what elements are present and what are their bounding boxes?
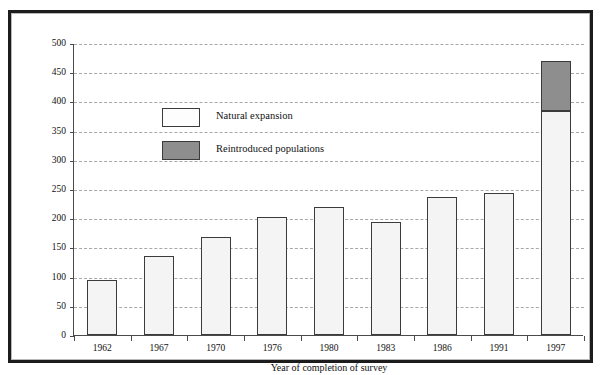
legend-label-natural-expansion: Natural expansion bbox=[216, 110, 293, 121]
bar-segment-natural-expansion bbox=[314, 207, 344, 335]
x-tick-label-1970: 1970 bbox=[191, 343, 241, 353]
y-tick-label: 350 bbox=[36, 127, 66, 137]
x-axis-title: Year of completion of survey bbox=[74, 362, 584, 373]
plot-area: 050100150200250300350400450500 Year of c… bbox=[73, 44, 583, 336]
x-tick-mark bbox=[357, 336, 358, 341]
bar-1997 bbox=[541, 43, 571, 335]
x-tick-mark bbox=[187, 336, 188, 341]
bar-1970 bbox=[201, 43, 231, 335]
legend-swatch-natural-expansion bbox=[162, 108, 200, 127]
legend-swatch-reintroduced-populations bbox=[162, 141, 200, 160]
x-tick-label-1997: 1997 bbox=[531, 343, 581, 353]
bar-1967 bbox=[144, 43, 174, 335]
x-tick-mark bbox=[471, 336, 472, 341]
bar-1962 bbox=[87, 43, 117, 335]
y-tick-label: 50 bbox=[36, 302, 66, 312]
legend-label-reintroduced-populations: Reintroduced populations bbox=[216, 143, 324, 154]
bar-1986 bbox=[427, 43, 457, 335]
y-tick-label: 150 bbox=[36, 243, 66, 253]
y-tick-mark bbox=[70, 219, 74, 220]
y-tick-label: 300 bbox=[36, 156, 66, 166]
x-tick-mark bbox=[301, 336, 302, 341]
y-tick-mark bbox=[70, 307, 74, 308]
bar-segment-natural-expansion bbox=[257, 217, 287, 335]
y-tick-label: 250 bbox=[36, 185, 66, 195]
x-tick-label-1983: 1983 bbox=[361, 343, 411, 353]
y-tick-label: 0 bbox=[36, 331, 66, 341]
y-tick-mark bbox=[70, 73, 74, 74]
y-tick-mark bbox=[70, 132, 74, 133]
x-tick-label-1976: 1976 bbox=[247, 343, 297, 353]
y-tick-mark bbox=[70, 102, 74, 103]
bar-segment-natural-expansion bbox=[144, 256, 174, 335]
x-tick-label-1980: 1980 bbox=[304, 343, 354, 353]
y-tick-mark bbox=[70, 248, 74, 249]
bar-1980 bbox=[314, 43, 344, 335]
bar-segment-natural-expansion bbox=[371, 222, 401, 335]
x-tick-mark bbox=[584, 336, 585, 341]
y-tick-label: 500 bbox=[36, 39, 66, 49]
y-tick-label: 400 bbox=[36, 97, 66, 107]
y-tick-label: 100 bbox=[36, 273, 66, 283]
y-tick-mark bbox=[70, 44, 74, 45]
bar-segment-natural-expansion bbox=[201, 237, 231, 335]
bar-segment-natural-expansion bbox=[541, 111, 571, 335]
x-tick-label-1986: 1986 bbox=[417, 343, 467, 353]
x-tick-label-1991: 1991 bbox=[474, 343, 524, 353]
y-tick-mark bbox=[70, 161, 74, 162]
figure-frame: Number of 10km squares recorded as occup… bbox=[8, 10, 593, 363]
bar-1983 bbox=[371, 43, 401, 335]
x-tick-mark bbox=[74, 336, 75, 341]
y-tick-mark bbox=[70, 278, 74, 279]
y-tick-label: 200 bbox=[36, 214, 66, 224]
x-tick-mark bbox=[131, 336, 132, 341]
y-tick-label: 450 bbox=[36, 68, 66, 78]
bar-1991 bbox=[484, 43, 514, 335]
x-tick-label-1967: 1967 bbox=[134, 343, 184, 353]
y-tick-mark bbox=[70, 190, 74, 191]
bar-1976 bbox=[257, 43, 287, 335]
bar-segment-natural-expansion bbox=[484, 193, 514, 335]
x-tick-mark bbox=[414, 336, 415, 341]
x-tick-mark bbox=[244, 336, 245, 341]
bar-segment-natural-expansion bbox=[427, 197, 457, 335]
x-tick-label-1962: 1962 bbox=[77, 343, 127, 353]
x-tick-mark bbox=[527, 336, 528, 341]
bar-segment-natural-expansion bbox=[87, 280, 117, 335]
bar-segment-reintroduced-populations bbox=[541, 61, 571, 112]
